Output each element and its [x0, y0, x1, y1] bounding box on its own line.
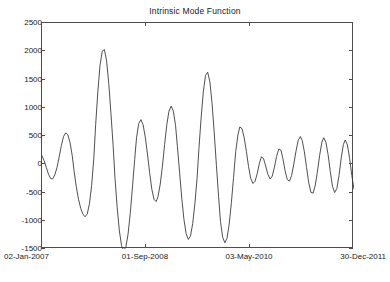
y-tick-mark [41, 107, 45, 108]
x-tick-mark [41, 22, 42, 26]
y-tick-mark [349, 135, 353, 136]
y-tick-mark [41, 135, 45, 136]
y-tick-mark [41, 220, 45, 221]
y-tick-mark [349, 248, 353, 249]
y-tick-label: 2500 [24, 18, 42, 27]
y-tick-mark [41, 192, 45, 193]
x-tick-mark [352, 244, 353, 248]
y-tick-label: -500 [26, 187, 42, 196]
x-tick-label: 02-Jan-2007 [4, 252, 49, 261]
chart-title: Intrinsic Mode Function [0, 6, 390, 16]
x-tick-mark [145, 244, 146, 248]
x-tick-label: 01-Sep-2008 [122, 252, 168, 261]
y-tick-label: 500 [29, 131, 42, 140]
y-tick-mark [349, 50, 353, 51]
x-tick-mark [249, 244, 250, 248]
x-tick-label: 30-Dec-2011 [340, 252, 386, 261]
y-tick-mark [349, 163, 353, 164]
y-tick-mark [349, 220, 353, 221]
plot-area [41, 22, 353, 248]
y-tick-label: -1000 [22, 215, 42, 224]
y-tick-mark [41, 50, 45, 51]
figure: Intrinsic Mode Function 2500200015001000… [0, 0, 390, 282]
x-tick-mark [352, 22, 353, 26]
y-tick-mark [349, 79, 353, 80]
x-tick-mark [249, 22, 250, 26]
x-tick-mark [41, 244, 42, 248]
y-tick-mark [41, 163, 45, 164]
y-tick-mark [41, 79, 45, 80]
y-tick-mark [41, 248, 45, 249]
x-tick-label: 03-May-2010 [225, 252, 272, 261]
y-tick-mark [349, 192, 353, 193]
y-tick-label: 2000 [24, 46, 42, 55]
y-tick-label: 1000 [24, 102, 42, 111]
y-tick-mark [349, 107, 353, 108]
y-tick-label: 1500 [24, 74, 42, 83]
x-tick-mark [145, 22, 146, 26]
line-series [42, 23, 354, 249]
